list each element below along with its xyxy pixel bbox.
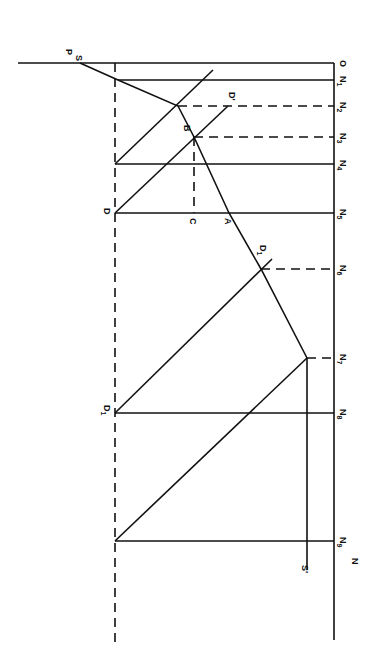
tick-n3: N3	[336, 133, 348, 144]
tick-n2: N2	[336, 102, 348, 113]
tick-n8: N8	[336, 409, 348, 420]
tick-n7: N7	[336, 354, 348, 365]
label-a: A	[223, 218, 233, 225]
label-c: C	[188, 218, 198, 225]
diagonal-d-dprime	[115, 106, 228, 213]
diagonal-d1-d1prime	[115, 259, 272, 413]
tick-n9: N9	[336, 537, 348, 548]
label-d1-prime: D1	[256, 245, 268, 256]
label-s: S	[74, 55, 84, 61]
label-n: N	[350, 558, 360, 565]
diagonal-n4	[115, 70, 213, 164]
label-s-prime: S'	[300, 565, 310, 573]
label-d-prime: D'	[227, 92, 237, 101]
label-p: P	[64, 49, 74, 55]
label-d1: D1	[100, 405, 112, 416]
supply-curve	[80, 63, 307, 358]
tick-n5: N5	[336, 209, 348, 220]
tick-n1: N1	[336, 76, 348, 87]
tick-n6: N6	[336, 265, 348, 276]
label-d: D	[102, 208, 112, 215]
tick-n4: N4	[336, 160, 348, 171]
label-o: O	[338, 60, 348, 67]
label-b: B	[182, 125, 192, 132]
construction-diagram: P S O N D' B D C A D1 D1 S' N1 N2 N3 N4 …	[0, 0, 379, 669]
